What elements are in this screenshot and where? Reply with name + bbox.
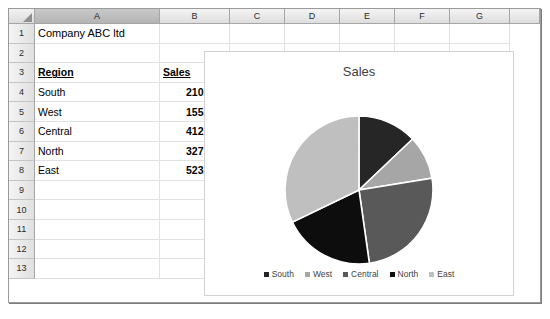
worksheet-frame: ABCDEFG 12345678910111213 Company ABC lt… bbox=[8, 8, 541, 303]
legend-label: West bbox=[313, 269, 332, 279]
column-header-c[interactable]: C bbox=[230, 9, 285, 24]
legend-label: East bbox=[437, 269, 454, 279]
pie-plot-area bbox=[283, 114, 435, 266]
row-header-13[interactable]: 13 bbox=[9, 259, 35, 279]
legend-label: Central bbox=[351, 269, 378, 279]
legend-swatch-icon bbox=[429, 272, 434, 277]
column-header-blank[interactable] bbox=[510, 9, 540, 24]
legend-swatch-icon bbox=[264, 272, 269, 277]
legend-item-north[interactable]: North bbox=[390, 269, 419, 279]
row-header-11[interactable]: 11 bbox=[9, 220, 35, 240]
select-all-triangle-icon bbox=[23, 13, 32, 22]
cell-A8[interactable]: East bbox=[35, 161, 160, 181]
row-header-3[interactable]: 3 bbox=[9, 63, 35, 83]
row-header-2[interactable]: 2 bbox=[9, 44, 35, 64]
cell-E1[interactable] bbox=[340, 24, 395, 44]
cell-A5[interactable]: West bbox=[35, 102, 160, 122]
cell-A11[interactable] bbox=[35, 220, 160, 240]
legend-swatch-icon bbox=[390, 272, 395, 277]
legend-label: South bbox=[272, 269, 294, 279]
column-header-b[interactable]: B bbox=[160, 9, 230, 24]
legend-swatch-icon bbox=[305, 272, 310, 277]
cell-D1[interactable] bbox=[285, 24, 340, 44]
legend-item-west[interactable]: West bbox=[305, 269, 332, 279]
cell-A7[interactable]: North bbox=[35, 142, 160, 162]
column-header-g[interactable]: G bbox=[450, 9, 510, 24]
cell-A9[interactable] bbox=[35, 181, 160, 201]
legend-item-south[interactable]: South bbox=[264, 269, 294, 279]
column-header-d[interactable]: D bbox=[285, 9, 340, 24]
row-header-6[interactable]: 6 bbox=[9, 122, 35, 142]
column-header-e[interactable]: E bbox=[340, 9, 395, 24]
legend-item-east[interactable]: East bbox=[429, 269, 454, 279]
pie-slice-central[interactable] bbox=[359, 178, 433, 263]
cell-B1[interactable] bbox=[160, 24, 230, 44]
cell-A12[interactable] bbox=[35, 240, 160, 260]
row-header-10[interactable]: 10 bbox=[9, 200, 35, 220]
cell-G1[interactable] bbox=[450, 24, 510, 44]
pie-chart-object[interactable]: Sales SouthWestCentralNorthEast bbox=[204, 51, 514, 296]
cell-C1[interactable] bbox=[230, 24, 285, 44]
cell-A4[interactable]: South bbox=[35, 83, 160, 103]
cell-A10[interactable] bbox=[35, 200, 160, 220]
legend-label: North bbox=[398, 269, 419, 279]
excel-worksheet-screenshot: ABCDEFG 12345678910111213 Company ABC lt… bbox=[0, 0, 550, 319]
cell-F1[interactable] bbox=[395, 24, 450, 44]
row-header-12[interactable]: 12 bbox=[9, 240, 35, 260]
legend-swatch-icon bbox=[343, 272, 348, 277]
cell-A3[interactable]: Region bbox=[35, 63, 160, 83]
column-header-f[interactable]: F bbox=[395, 9, 450, 24]
row-header-1[interactable]: 1 bbox=[9, 24, 35, 44]
cell-A2[interactable] bbox=[35, 44, 160, 64]
chart-legend: SouthWestCentralNorthEast bbox=[205, 269, 513, 279]
row-header-4[interactable]: 4 bbox=[9, 83, 35, 103]
column-header-a[interactable]: A bbox=[35, 9, 160, 24]
row-header-5[interactable]: 5 bbox=[9, 102, 35, 122]
cell-A13[interactable] bbox=[35, 259, 160, 279]
cell-A1[interactable]: Company ABC ltd bbox=[35, 24, 160, 44]
row-header-9[interactable]: 9 bbox=[9, 181, 35, 201]
cell-A6[interactable]: Central bbox=[35, 122, 160, 142]
select-all-button[interactable] bbox=[9, 9, 35, 24]
legend-item-central[interactable]: Central bbox=[343, 269, 378, 279]
chart-title: Sales bbox=[205, 64, 513, 79]
row-header-8[interactable]: 8 bbox=[9, 161, 35, 181]
row-header-7[interactable]: 7 bbox=[9, 142, 35, 162]
